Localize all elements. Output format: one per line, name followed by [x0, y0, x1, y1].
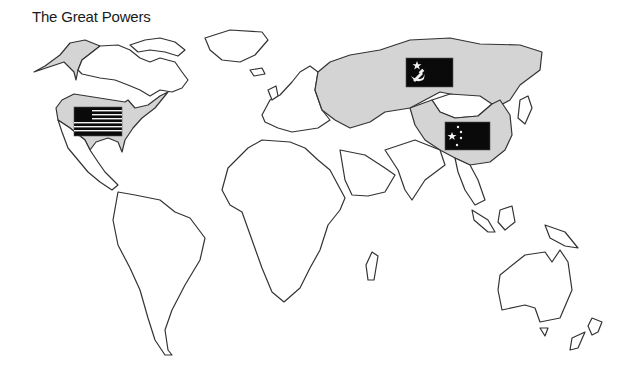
world-map [0, 0, 635, 379]
region-australia [498, 250, 572, 322]
region-arctic-islands [130, 38, 185, 56]
region-tasmania [540, 328, 548, 336]
region-borneo [498, 206, 515, 230]
ussr-flag-icon [406, 58, 453, 87]
region-new-guinea [545, 225, 578, 248]
region-arabia [340, 150, 395, 196]
region-greenland [205, 30, 268, 62]
region-iceland [250, 68, 265, 76]
region-madagascar [366, 252, 378, 280]
region-se-asia [455, 158, 485, 205]
us-flag-icon [74, 107, 122, 136]
region-africa [222, 140, 345, 302]
region-sumatra [472, 210, 495, 232]
region-india [385, 140, 445, 200]
region-japan [518, 96, 532, 124]
region-south-america [113, 192, 205, 355]
region-new-zealand [570, 318, 602, 350]
china-flag-icon [445, 122, 490, 150]
